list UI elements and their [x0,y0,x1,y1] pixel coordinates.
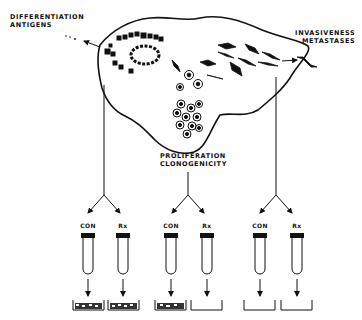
tube-label-con: CON [252,222,268,229]
label-invasiveness-line2: METASTASES [295,37,355,45]
label-proliferation-line2: CLONOGENICITY [160,160,227,168]
tube-5-con [253,233,267,274]
tube-3-con [164,233,178,274]
proliferation-cell-cluster [173,71,203,139]
tube-1-con [81,233,95,274]
branch-arrows [88,195,292,213]
culture-dishes [73,300,312,310]
tube-2-rx [116,233,130,274]
label-differentiation-line2: ANTIGENS [10,21,84,29]
label-proliferation: PROLIFERATION CLONOGENICITY [160,152,227,168]
label-invasiveness-line1: INVASIVENESS [295,29,355,37]
tube-label-con: CON [80,222,96,229]
tumor-assay-diagram: DIFFERENTIATION ANTIGENS INVASIVENESS ME… [0,0,362,320]
tube-to-dish-arrows [88,279,297,296]
differentiation-cell-cluster [105,32,163,73]
label-proliferation-line1: PROLIFERATION [160,152,227,160]
label-differentiation-line1: DIFFERENTIATION [10,13,84,21]
tube-6-rx [290,233,304,274]
tube-label-rx: Rx [118,222,127,229]
tube-label-rx: Rx [202,222,211,229]
label-differentiation: DIFFERENTIATION ANTIGENS [10,13,84,29]
label-invasiveness: INVASIVENESS METASTASES [295,29,355,45]
escaping-cell [297,57,317,67]
tube-4-rx [200,233,214,274]
colonies [75,303,184,309]
tube-label-con: CON [163,222,179,229]
tube-label-rx: Rx [292,222,301,229]
tubes [81,233,304,274]
